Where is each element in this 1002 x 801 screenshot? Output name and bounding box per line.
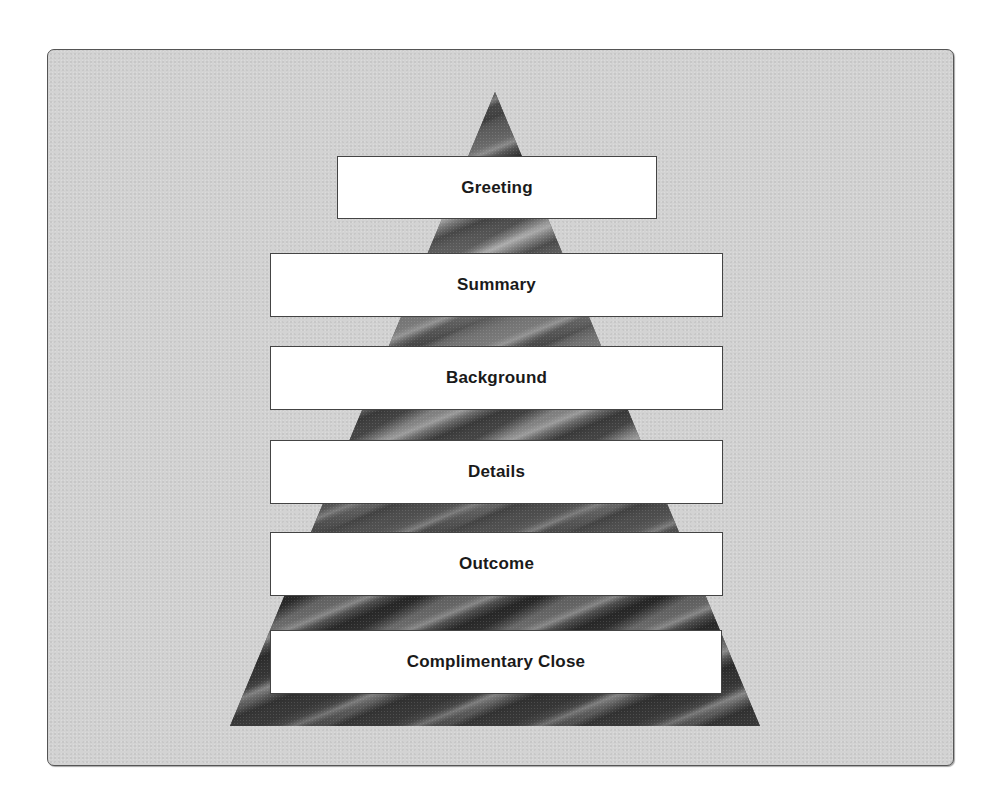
level-greeting: Greeting [337, 156, 657, 219]
level-label: Background [446, 368, 547, 388]
level-label: Summary [457, 275, 536, 295]
level-label: Complimentary Close [407, 652, 586, 672]
level-complimentary-close: Complimentary Close [270, 630, 722, 694]
level-label: Outcome [459, 554, 534, 574]
level-summary: Summary [270, 253, 723, 317]
level-label: Details [468, 462, 525, 482]
level-background: Background [270, 346, 723, 410]
level-label: Greeting [461, 178, 533, 198]
level-outcome: Outcome [270, 532, 723, 596]
level-details: Details [270, 440, 723, 504]
